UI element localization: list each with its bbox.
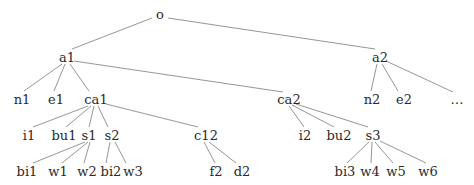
node-a1: a1 [59, 51, 75, 64]
node-f2: f2 [209, 165, 222, 178]
node-i2: i2 [299, 129, 311, 142]
node-n2: n2 [364, 93, 381, 106]
node-w3: w3 [123, 165, 142, 178]
node-w1: w1 [48, 165, 67, 178]
node-s1: s1 [82, 129, 97, 142]
edge-s1-w2 [84, 142, 90, 163]
node-e1: e1 [48, 93, 64, 106]
edge-a2-e2 [382, 64, 398, 91]
node-w6: w6 [418, 165, 437, 178]
node-e2: e2 [396, 93, 412, 106]
node-i1: i1 [23, 129, 35, 142]
node-o: o [156, 8, 164, 21]
node-bi3: bi3 [335, 165, 356, 178]
edge-a1-n1 [24, 64, 62, 91]
edge-a2-n2 [371, 64, 377, 91]
node-bu2: bu2 [327, 129, 352, 142]
node-bi2: bi2 [101, 165, 122, 178]
node-s3: s3 [366, 129, 381, 142]
edge-s3-w4 [371, 142, 372, 163]
edge-ca1-s1 [89, 106, 94, 127]
node-w5: w5 [386, 165, 405, 178]
node-n1: n1 [14, 93, 31, 106]
node-c12: c12 [194, 129, 218, 142]
edge-ca2-i2 [289, 106, 304, 127]
node-a2: a2 [372, 51, 388, 64]
edge-s2-bi2 [106, 142, 110, 163]
node-s2: s2 [105, 129, 120, 142]
node-more: … [451, 93, 464, 106]
edge-s3-w5 [375, 142, 393, 163]
edge-s2-w3 [115, 142, 126, 163]
node-w2: w2 [77, 165, 96, 178]
edge-ca1-i1 [33, 106, 88, 127]
node-ca1: ca1 [84, 93, 107, 106]
node-ca2: ca2 [277, 93, 300, 106]
edge-ca1-c12 [106, 104, 198, 127]
node-d2: d2 [234, 165, 251, 178]
edge-ca1-s2 [98, 106, 108, 127]
tree-diagram: oa1a2n1e1ca1ca2n2e2…i1bu1s1s2c12i2bu2s3b… [0, 0, 474, 185]
edge-s1-bi1 [33, 142, 85, 163]
edge-ca2-bu2 [292, 105, 334, 127]
edge-ca2-s3 [296, 104, 368, 127]
edge-s3-w6 [380, 141, 426, 163]
edge-s3-bi3 [347, 142, 369, 163]
edge-o-a2 [168, 18, 375, 49]
edge-a1-ca2 [74, 61, 283, 92]
edge-o-a1 [72, 18, 152, 49]
node-bu1: bu1 [52, 129, 77, 142]
edge-a1-ca1 [70, 64, 89, 91]
node-bi1: bi1 [17, 165, 38, 178]
edge-s1-w1 [62, 142, 88, 163]
node-w4: w4 [360, 165, 379, 178]
